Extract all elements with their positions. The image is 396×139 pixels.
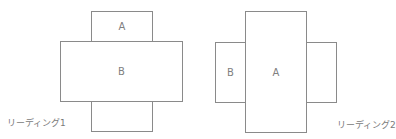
box-2-right — [306, 42, 337, 103]
box-2-center-label: A — [245, 68, 307, 78]
box-2-left-label: B — [215, 68, 246, 78]
box-1-middle-label: B — [60, 67, 183, 77]
box-1-bottom — [91, 101, 153, 132]
caption-2: リーディング2 — [337, 120, 396, 131]
caption-1: リーディング1 — [7, 118, 66, 129]
box-1-top-label: A — [91, 22, 153, 32]
